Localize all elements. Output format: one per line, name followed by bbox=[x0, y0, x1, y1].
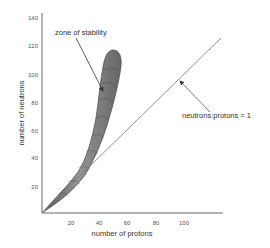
y-axis-label: number of neutrons bbox=[17, 80, 26, 145]
y-tick-120: 120 bbox=[28, 43, 39, 49]
x-tick-20: 20 bbox=[68, 220, 75, 226]
zone-of-stability-label: zone of stability bbox=[55, 28, 107, 37]
chart: 20 40 60 80 100 120 140 20 40 60 80 100 … bbox=[0, 0, 270, 248]
x-tick-40: 40 bbox=[96, 220, 103, 226]
y-tick-40: 40 bbox=[31, 155, 38, 161]
y-tick-80: 80 bbox=[31, 100, 38, 106]
zone-of-stability-band bbox=[43, 50, 121, 212]
ratio-arrow bbox=[180, 81, 210, 112]
y-tick-20: 20 bbox=[31, 184, 38, 190]
zone-arrow bbox=[76, 38, 103, 91]
x-tick-labels: 20 40 60 80 100 bbox=[68, 220, 190, 226]
y-tick-labels: 20 40 60 80 100 120 140 bbox=[28, 15, 39, 190]
ratio-one-line bbox=[42, 38, 221, 213]
y-tick-60: 60 bbox=[31, 128, 38, 134]
ratio-label: neutrons:protons = 1 bbox=[182, 111, 251, 120]
x-tick-80: 80 bbox=[153, 220, 160, 226]
x-tick-60: 60 bbox=[124, 220, 131, 226]
y-tick-100: 100 bbox=[28, 72, 39, 78]
x-tick-100: 100 bbox=[179, 220, 190, 226]
y-tick-140: 140 bbox=[28, 15, 39, 21]
x-axis-label: number of protons bbox=[92, 229, 153, 238]
